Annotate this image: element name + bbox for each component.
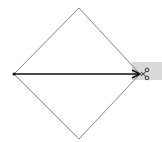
arrow-connector[interactable] [13, 70, 141, 78]
diagram-canvas [0, 0, 162, 142]
